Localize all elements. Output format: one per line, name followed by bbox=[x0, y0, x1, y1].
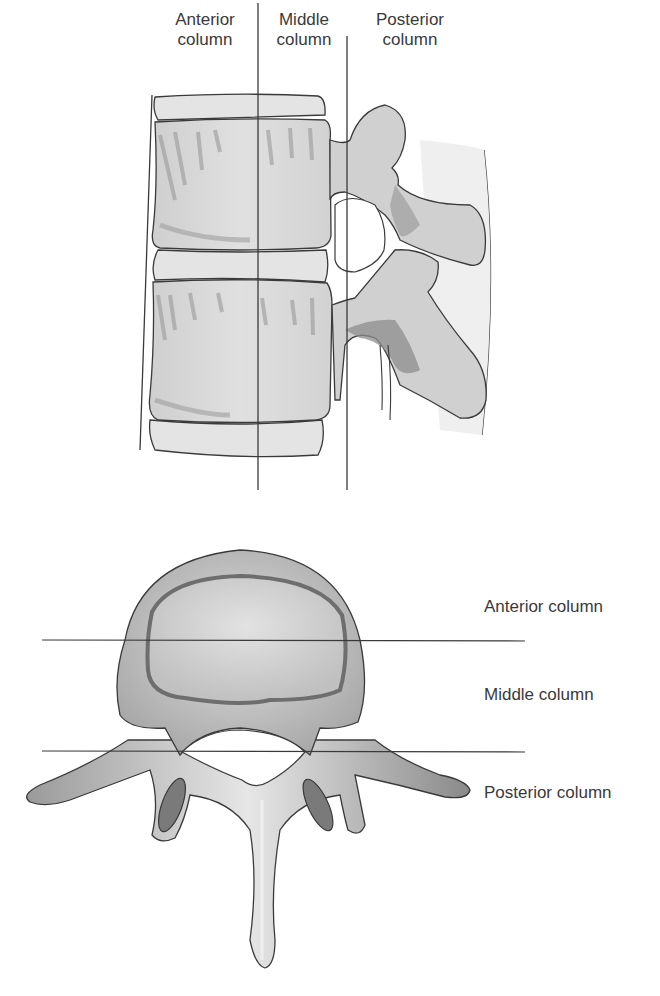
axial-vertebra-view bbox=[27, 550, 525, 968]
spine-diagram bbox=[0, 0, 660, 996]
divider-anterior-middle-axial bbox=[42, 640, 525, 641]
lower-vertebral-body bbox=[149, 280, 332, 423]
lateral-spine-view bbox=[140, 3, 491, 490]
